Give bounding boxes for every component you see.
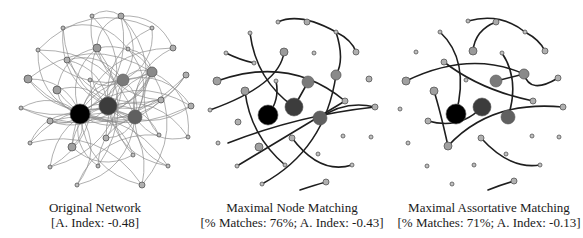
network-node bbox=[519, 69, 529, 79]
network-node bbox=[68, 143, 76, 151]
network-edge bbox=[80, 114, 142, 185]
network-node bbox=[472, 163, 476, 167]
network-node bbox=[331, 70, 341, 80]
network-node bbox=[302, 76, 314, 88]
network-node bbox=[61, 26, 65, 30]
network-node bbox=[511, 178, 517, 184]
caption-title: Maximal Assortative Matching bbox=[379, 200, 583, 215]
maximal-assortative-matching-panel bbox=[398, 18, 566, 190]
network-node bbox=[353, 49, 359, 55]
network-node bbox=[557, 135, 561, 139]
network-node bbox=[560, 104, 566, 110]
node-matching-caption: Maximal Node Matching [% Matches: 76%; A… bbox=[182, 200, 402, 230]
network-node bbox=[446, 104, 466, 124]
network-node bbox=[157, 133, 161, 137]
network-node bbox=[542, 48, 548, 54]
matching-edge bbox=[278, 19, 356, 52]
network-node bbox=[103, 135, 109, 141]
network-node bbox=[372, 104, 378, 110]
caption-subtitle: [% Matches: 71%; A. Index: -0.13] bbox=[379, 215, 583, 230]
network-node bbox=[369, 135, 373, 139]
network-node bbox=[493, 19, 499, 25]
network-node bbox=[75, 183, 79, 187]
matching-edge bbox=[245, 91, 285, 165]
network-edge bbox=[92, 11, 121, 16]
matching-edge bbox=[406, 64, 558, 86]
caption-title: Maximal Node Matching bbox=[182, 200, 402, 215]
original-network-caption: Original Network [A. Index: -0.48] bbox=[0, 200, 190, 230]
network-node bbox=[216, 141, 220, 145]
matching-edge bbox=[488, 181, 514, 190]
network-node bbox=[170, 45, 176, 51]
network-node bbox=[441, 59, 447, 65]
network-node bbox=[316, 152, 320, 156]
matching-edge bbox=[292, 138, 352, 167]
network-node bbox=[241, 87, 249, 95]
network-node bbox=[147, 67, 157, 77]
network-node bbox=[139, 182, 145, 188]
network-node bbox=[366, 76, 372, 82]
matching-edge bbox=[226, 53, 254, 63]
network-node bbox=[252, 61, 256, 65]
network-node bbox=[90, 14, 94, 18]
network-node bbox=[430, 87, 438, 95]
network-node bbox=[224, 51, 228, 55]
network-node bbox=[186, 135, 190, 139]
assortative-matching-caption: Maximal Assortative Matching [% Matches:… bbox=[379, 200, 583, 230]
network-node bbox=[64, 57, 70, 63]
network-node bbox=[126, 47, 130, 51]
network-node bbox=[538, 163, 542, 167]
network-node bbox=[504, 152, 508, 156]
network-node bbox=[283, 163, 287, 167]
matching-edge bbox=[473, 22, 496, 51]
network-node bbox=[334, 30, 338, 34]
network-node bbox=[285, 98, 303, 116]
matching-edge bbox=[502, 53, 513, 117]
network-node bbox=[47, 118, 53, 124]
network-node bbox=[425, 164, 429, 168]
network-node bbox=[530, 98, 536, 104]
network-node bbox=[523, 30, 527, 34]
caption-subtitle: [A. Index: -0.48] bbox=[0, 215, 190, 230]
network-node bbox=[53, 86, 61, 94]
matching-edge bbox=[300, 182, 326, 190]
network-node bbox=[188, 103, 194, 109]
network-node bbox=[438, 30, 442, 34]
network-node bbox=[258, 105, 278, 125]
network-node bbox=[398, 107, 402, 111]
network-node bbox=[501, 110, 515, 124]
network-node bbox=[530, 134, 534, 138]
network-node bbox=[28, 141, 32, 145]
network-node bbox=[350, 163, 354, 167]
network-node bbox=[48, 165, 52, 169]
network-node bbox=[150, 26, 154, 30]
network-node bbox=[276, 20, 280, 24]
matching-edge bbox=[481, 138, 540, 166]
network-node bbox=[280, 48, 288, 56]
network-node bbox=[96, 164, 100, 168]
matching-edge bbox=[440, 32, 460, 114]
network-node bbox=[289, 135, 295, 141]
network-node bbox=[235, 119, 241, 125]
network-edge bbox=[28, 54, 152, 79]
network-node bbox=[248, 31, 252, 35]
network-node bbox=[490, 75, 502, 87]
network-node bbox=[19, 106, 23, 110]
network-node bbox=[117, 74, 129, 86]
network-node bbox=[555, 75, 561, 81]
network-node bbox=[118, 13, 124, 19]
network-node bbox=[304, 19, 310, 25]
network-node bbox=[342, 98, 348, 104]
network-node bbox=[500, 51, 504, 55]
network-edge bbox=[50, 117, 168, 166]
network-node bbox=[70, 104, 90, 124]
network-node bbox=[444, 142, 452, 150]
network-node bbox=[208, 108, 212, 112]
network-node bbox=[88, 78, 92, 82]
network-node bbox=[478, 135, 484, 141]
network-node bbox=[128, 110, 142, 124]
network-node bbox=[406, 141, 410, 145]
network-node bbox=[466, 19, 470, 23]
network-node bbox=[166, 164, 170, 168]
matching-edge bbox=[444, 62, 533, 101]
